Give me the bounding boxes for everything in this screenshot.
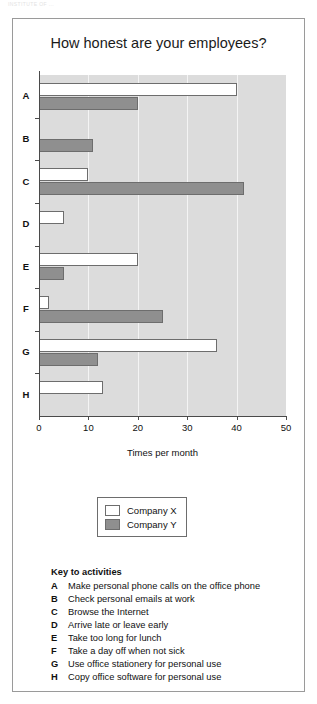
bar-f-company-y xyxy=(39,310,163,323)
y-tick xyxy=(35,288,39,289)
legend-item-company-y: Company Y xyxy=(105,517,177,531)
y-axis-line xyxy=(39,71,40,420)
x-tick-label: 30 xyxy=(172,422,202,433)
y-tick xyxy=(35,246,39,247)
key-letter: B xyxy=(51,593,68,606)
key-row-b: BCheck personal emails at work xyxy=(51,593,281,606)
y-tick xyxy=(35,373,39,374)
key-letter: G xyxy=(51,658,68,671)
key-text: Browse the Internet xyxy=(68,606,149,619)
key-text: Check personal emails at work xyxy=(68,593,195,606)
bar-d-company-x xyxy=(39,211,64,224)
key-text: Make personal phone calls on the office … xyxy=(68,580,260,593)
key-text: Arrive late or leave early xyxy=(68,619,168,632)
plot-area xyxy=(39,75,286,416)
key-title: Key to activities xyxy=(51,567,281,577)
category-label-b: B xyxy=(17,133,35,144)
gridline xyxy=(237,75,238,416)
chart-card: How honest are your employees? ABCDEFGH … xyxy=(12,18,305,692)
key-letter: H xyxy=(51,671,68,684)
x-axis-line xyxy=(39,416,286,417)
x-tick-label: 0 xyxy=(24,422,54,433)
category-label-g: G xyxy=(17,346,35,357)
x-tick xyxy=(88,416,89,420)
key-row-a: AMake personal phone calls on the office… xyxy=(51,580,281,593)
x-tick xyxy=(138,416,139,420)
x-tick-label: 10 xyxy=(73,422,103,433)
x-axis-title: Times per month xyxy=(39,447,286,458)
key-rows: AMake personal phone calls on the office… xyxy=(51,580,281,684)
chart-legend: Company X Company Y xyxy=(97,497,187,537)
category-label-h: H xyxy=(17,389,35,400)
bar-c-company-y xyxy=(39,182,244,195)
x-tick-label: 20 xyxy=(123,422,153,433)
key-row-e: ETake too long for lunch xyxy=(51,632,281,645)
key-row-h: HCopy office software for personal use xyxy=(51,671,281,684)
category-label-c: C xyxy=(17,176,35,187)
key-text: Use office stationery for personal use xyxy=(68,658,221,671)
bar-e-company-y xyxy=(39,267,64,280)
key-text: Copy office software for personal use xyxy=(68,671,221,684)
bar-f-company-x xyxy=(39,296,49,309)
bar-g-company-x xyxy=(39,339,217,352)
legend-item-company-x: Company X xyxy=(105,503,177,517)
bar-e-company-x xyxy=(39,253,138,266)
key-letter: A xyxy=(51,580,68,593)
x-tick-label: 50 xyxy=(271,422,301,433)
category-label-e: E xyxy=(17,261,35,272)
category-label-f: F xyxy=(17,303,35,314)
gridline xyxy=(187,75,188,416)
key-letter: C xyxy=(51,606,68,619)
bar-b-company-y xyxy=(39,139,93,152)
bar-a-company-y xyxy=(39,97,138,110)
legend-swatch-company-x xyxy=(105,505,120,516)
chart-title: How honest are your employees? xyxy=(13,35,304,51)
legend-label-company-x: Company X xyxy=(127,505,177,516)
plot-wrapper: ABCDEFGH 01020304050 Times per month xyxy=(39,75,286,430)
category-label-a: A xyxy=(17,90,35,101)
key-letter: E xyxy=(51,632,68,645)
bar-a-company-x xyxy=(39,83,237,96)
top-caption: INSTITUTE OF ... xyxy=(8,1,54,7)
x-tick xyxy=(286,416,287,420)
x-tick xyxy=(237,416,238,420)
key-letter: D xyxy=(51,619,68,632)
key-row-f: FTake a day off when not sick xyxy=(51,645,281,658)
legend-label-company-y: Company Y xyxy=(127,519,176,530)
bar-h-company-x xyxy=(39,381,103,394)
gridline xyxy=(138,75,139,416)
x-tick-label: 40 xyxy=(222,422,252,433)
bar-c-company-x xyxy=(39,168,88,181)
legend-swatch-company-y xyxy=(105,519,120,530)
x-tick xyxy=(187,416,188,420)
key-row-g: GUse office stationery for personal use xyxy=(51,658,281,671)
y-tick xyxy=(35,203,39,204)
y-tick xyxy=(35,331,39,332)
key-text: Take too long for lunch xyxy=(68,632,162,645)
key-letter: F xyxy=(51,645,68,658)
x-tick xyxy=(39,416,40,420)
key-row-c: CBrowse the Internet xyxy=(51,606,281,619)
key-row-d: DArrive late or leave early xyxy=(51,619,281,632)
bar-g-company-y xyxy=(39,353,98,366)
key-to-activities: Key to activities AMake personal phone c… xyxy=(51,567,281,684)
key-text: Take a day off when not sick xyxy=(68,645,185,658)
y-tick xyxy=(35,160,39,161)
y-tick xyxy=(35,118,39,119)
category-label-d: D xyxy=(17,218,35,229)
